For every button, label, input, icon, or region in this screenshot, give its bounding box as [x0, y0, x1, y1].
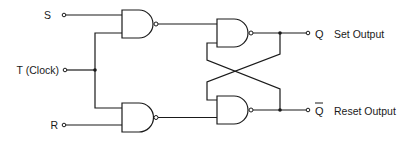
output-description-qbar: Reset Output — [334, 105, 396, 117]
inverter-bubble — [249, 31, 253, 35]
intermediate-wires — [158, 24, 217, 118]
inverter-bubble — [154, 22, 158, 26]
output-terminal-qbar — [306, 108, 310, 112]
sr-flip-flop-diagram: S T (Clock) R — [0, 0, 401, 141]
inverter-bubble — [249, 108, 253, 112]
nand-gate-latch-reset — [217, 96, 253, 124]
output-label-qbar: Q — [315, 105, 324, 117]
nand-gate-latch-set — [217, 19, 253, 47]
input-label-clock: T (Clock) — [17, 64, 59, 76]
input-terminal-clock — [63, 68, 67, 72]
nand-gate-input-set — [122, 10, 158, 38]
input-terminal-s — [62, 13, 66, 17]
input-label-s: S — [44, 9, 51, 21]
nand-gate-input-reset — [122, 103, 158, 132]
output-description-q: Set Output — [334, 28, 384, 40]
clock-junction-dot — [93, 68, 97, 72]
input-terminal-r — [62, 123, 66, 127]
output-terminal-q — [306, 31, 310, 35]
output-label-q: Q — [315, 28, 324, 40]
input-label-r: R — [50, 119, 58, 131]
inverter-bubble — [154, 116, 158, 120]
